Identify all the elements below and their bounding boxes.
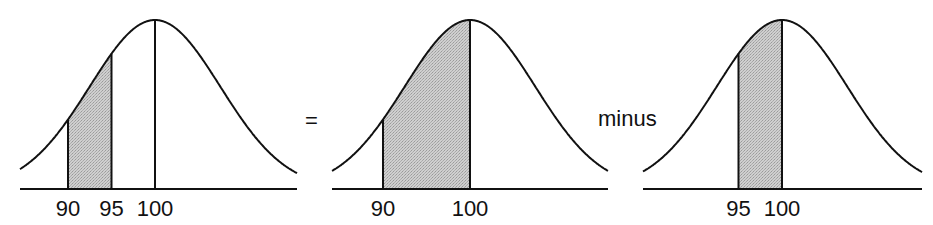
shaded-area <box>383 20 470 189</box>
equals-sign: = <box>305 110 318 132</box>
tick-label-95: 95 <box>99 198 123 220</box>
tick-label-95: 95 <box>726 198 750 220</box>
tick-label-100: 100 <box>452 198 489 220</box>
tick-label-90: 90 <box>56 198 80 220</box>
normal-curve <box>20 20 297 173</box>
normal-curve-figure <box>0 0 933 225</box>
panel-90-100 <box>332 20 608 189</box>
panel-95-100 <box>643 20 922 189</box>
tick-label-90: 90 <box>371 198 395 220</box>
shaded-area <box>68 54 112 189</box>
minus-word: minus <box>598 108 657 130</box>
tick-label-100: 100 <box>764 198 801 220</box>
panel-90-95 <box>20 20 297 189</box>
tick-label-100: 100 <box>137 198 174 220</box>
